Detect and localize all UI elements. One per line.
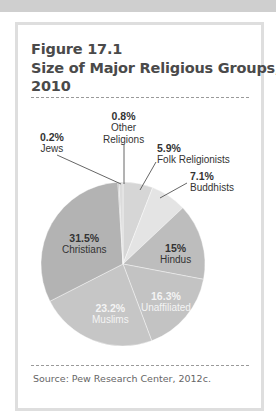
label-buddhists: 7.1% Buddhists	[190, 170, 234, 194]
source-note: Source: Pew Research Center, 2012c.	[33, 373, 211, 384]
pie-chart	[0, 0, 276, 414]
label-jews: 0.2% Jews	[40, 131, 64, 155]
label-hindus: 15% Hindus	[160, 242, 191, 266]
label-unaffiliated: 16.3% Unaffiliated	[141, 290, 191, 314]
label-other-religions: 0.8% Other Religions	[103, 110, 144, 146]
leader-line-jews	[57, 155, 121, 184]
label-christians: 31.5% Christians	[62, 232, 106, 256]
source-divider	[31, 365, 249, 366]
label-muslims: 23.2% Muslims	[92, 302, 129, 326]
label-folk-religionists: 5.9% Folk Religionists	[157, 142, 230, 166]
leader-line-buddhists	[160, 183, 187, 198]
